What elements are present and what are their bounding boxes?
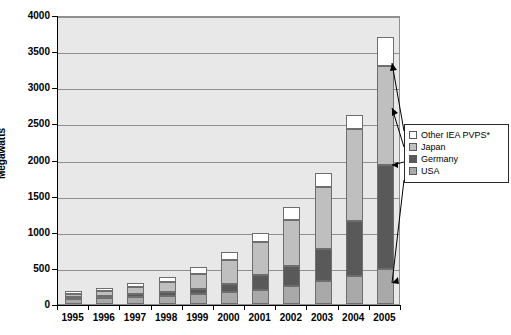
y-axis-tick-label: 1000 [4, 227, 50, 238]
y-axis-tick-label: 4000 [4, 10, 50, 21]
bar-segment [127, 294, 144, 297]
bar-segment [283, 266, 300, 286]
x-axis-tick-label: 2005 [368, 312, 400, 323]
bar-segment [127, 283, 144, 287]
x-axis-tick-label: 1995 [57, 312, 89, 323]
x-axis-tick [275, 305, 276, 310]
bar-column [96, 15, 113, 304]
y-axis-tick-label: 1500 [4, 191, 50, 202]
y-axis-tick [52, 197, 57, 198]
legend: Other IEA PVPS*JapanGermanyUSA [404, 124, 509, 183]
bar-segment [377, 37, 394, 66]
y-axis-tick-label: 2500 [4, 118, 50, 129]
bar-segment [159, 292, 176, 296]
bar-segment [96, 296, 113, 298]
y-axis-tick [52, 161, 57, 162]
y-axis-tick [52, 124, 57, 125]
bar-column [127, 15, 144, 304]
legend-label: Japan [421, 142, 446, 152]
x-axis-tick-label: 2003 [306, 312, 338, 323]
legend-swatch [409, 167, 417, 175]
x-axis-tick [306, 305, 307, 310]
x-axis-tick [244, 305, 245, 310]
y-axis-tick-label: 3500 [4, 46, 50, 57]
legend-label: Other IEA PVPS* [421, 130, 490, 140]
y-axis-tick [52, 233, 57, 234]
legend-item: Japan [409, 142, 505, 152]
bar-segment [283, 220, 300, 266]
x-axis-tick-label: 1996 [88, 312, 120, 323]
bar-segment [127, 297, 144, 304]
bar-segment [315, 249, 332, 281]
bar-segment [159, 277, 176, 282]
bar-segment [315, 187, 332, 249]
y-axis-tick [52, 269, 57, 270]
bar-segment [96, 298, 113, 304]
bar-segment [315, 173, 332, 187]
y-axis-tick-label: 500 [4, 263, 50, 274]
bar-segment [283, 286, 300, 304]
bar-column [315, 15, 332, 304]
y-axis-tick [52, 52, 57, 53]
bar-segment [96, 291, 113, 296]
bar-column [159, 15, 176, 304]
x-axis-tick-label: 2002 [275, 312, 307, 323]
bar-segment [315, 281, 332, 304]
bar-segment [346, 221, 363, 276]
bar-segment [190, 289, 207, 294]
bar-segment [65, 299, 82, 304]
x-axis-tick [213, 305, 214, 310]
bar-segment [377, 269, 394, 304]
x-axis-tick-label: 1997 [119, 312, 151, 323]
bar-segment [127, 287, 144, 294]
legend-swatch [409, 131, 417, 139]
bar-column [346, 15, 363, 304]
legend-item: USA [409, 166, 505, 176]
bar-segment [190, 294, 207, 304]
x-axis-tick-label: 2001 [244, 312, 276, 323]
plot-area [57, 16, 400, 305]
bar-column [252, 15, 269, 304]
bar-segment [377, 165, 394, 270]
bars-layer [58, 17, 399, 304]
bar-segment [252, 275, 269, 289]
x-axis-tick [119, 305, 120, 310]
bar-segment [221, 260, 238, 284]
bar-segment [190, 274, 207, 289]
bar-segment [252, 290, 269, 304]
x-axis-tick [151, 305, 152, 310]
bar-segment [65, 291, 82, 294]
x-axis-tick [57, 305, 58, 310]
bar-segment [65, 294, 82, 297]
bar-column [65, 15, 82, 304]
legend-swatch [409, 155, 417, 163]
bar-segment [190, 267, 207, 274]
x-axis-tick [369, 305, 370, 310]
bar-segment [252, 242, 269, 275]
bar-segment [221, 252, 238, 260]
legend-swatch [409, 143, 417, 151]
legend-label: Germany [421, 154, 458, 164]
legend-item: Germany [409, 154, 505, 164]
bar-column [283, 15, 300, 304]
bar-segment [159, 282, 176, 292]
y-axis-line [57, 16, 58, 306]
x-axis-tick [182, 305, 183, 310]
bar-segment [221, 292, 238, 304]
y-axis-tick [52, 16, 57, 17]
bar-column [190, 15, 207, 304]
y-axis-tick-labels: 05001000150020002500300035004000 [0, 0, 50, 335]
x-axis-tick [88, 305, 89, 310]
legend-item: Other IEA PVPS* [409, 130, 505, 140]
y-axis-tick [52, 88, 57, 89]
stacked-bar-chart: Megawatts 050010001500200025003000350040… [0, 0, 511, 335]
y-axis-tick-label: 0 [4, 299, 50, 310]
bar-segment [346, 276, 363, 304]
x-axis-tick-label: 2004 [337, 312, 369, 323]
bar-segment [252, 233, 269, 242]
x-axis-tick-label: 1999 [181, 312, 213, 323]
y-axis-tick-label: 3000 [4, 82, 50, 93]
bar-segment [283, 207, 300, 220]
x-axis-tick [400, 305, 401, 310]
bar-segment [65, 297, 82, 299]
